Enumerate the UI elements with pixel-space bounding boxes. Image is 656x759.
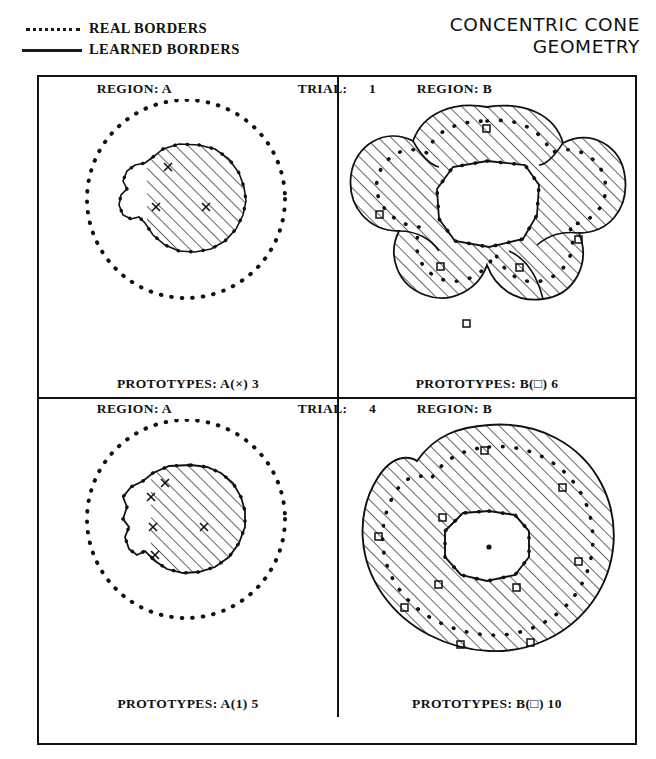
figure-title-line-2: GEOMETRY [450,36,640,58]
figure-frame: TRIAL: 1 REGION: A [37,75,637,745]
panel-footer-region-b-trial-1: PROTOTYPES: B(□) 6 [339,376,635,392]
panel-region-a-trial-4: REGION: A [39,397,337,717]
learned-border-core-b-1 [437,161,539,247]
plot-region-a-trial-4 [39,419,337,691]
panel-footer-region-a-trial-1: PROTOTYPES: A(×) 3 [39,376,337,392]
plot-region-b-trial-4 [339,419,635,691]
hatched-region-a-4 [151,459,271,584]
legend-label-real-borders: REAL BORDERS [89,20,207,37]
legend-item-real-borders: REAL BORDERS [22,18,322,39]
panel-region-a-trial-1: REGION: A [39,77,337,397]
hatched-region-a-1 [147,139,267,259]
figure-title-line-1: CONCENTRIC CONE [450,14,640,36]
plot-region-a-trial-1 [39,99,337,371]
legend-label-learned-borders: LEARNED BORDERS [89,41,240,58]
panel-region-b-trial-1: REGION: B [339,77,635,397]
dotted-line-swatch-icon [22,23,82,35]
figure-title: CONCENTRIC CONE GEOMETRY [450,14,640,58]
panel-title-region-b-trial-1: REGION: B [351,81,558,97]
prototype-marker-square [463,320,470,327]
panel-title-region-b-trial-4: REGION: B [351,401,558,417]
panel-row-trial-1: TRIAL: 1 REGION: A [39,77,635,397]
panel-region-b-trial-4: REGION: B [339,397,635,717]
legend-item-learned-borders: LEARNED BORDERS [22,39,322,60]
center-point-b-4 [486,544,491,549]
panel-row-trial-4: TRIAL: 4 REGION: A [39,397,635,717]
panel-title-region-a-trial-1: REGION: A [39,81,230,97]
plot-region-b-trial-1 [339,99,635,371]
solid-line-swatch-icon [22,44,82,56]
panel-footer-region-b-trial-4: PROTOTYPES: B(□) 10 [339,696,635,712]
legend: REAL BORDERS LEARNED BORDERS [22,18,322,60]
panel-footer-region-a-trial-4: PROTOTYPES: A(1) 5 [39,696,337,712]
panel-title-region-a-trial-4: REGION: A [39,401,230,417]
